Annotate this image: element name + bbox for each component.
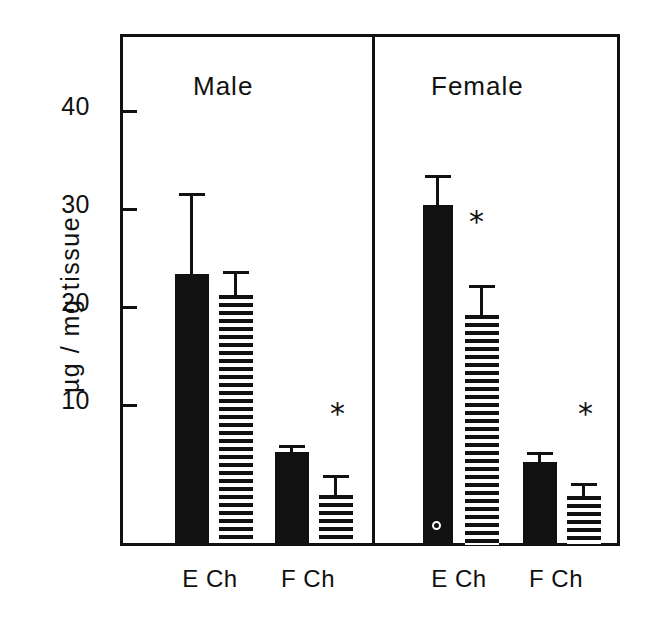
errorbar-cap-male-ech-solid	[179, 193, 205, 196]
errorbar-cap-female-ech-solid	[425, 175, 451, 178]
errorbar-stem-female-ech-solid	[436, 175, 439, 206]
panel-title-female: Female	[431, 71, 524, 102]
bar-female-ech-striped	[465, 315, 499, 545]
errorbar-cap-male-fch-striped	[323, 475, 349, 478]
errorbar-cap-female-ech-striped	[469, 285, 495, 288]
y-tick-label-10: 10	[28, 386, 90, 415]
bar-male-fch-solid	[275, 452, 309, 545]
bar-female-ech-solid	[423, 205, 453, 545]
bar-female-fch-striped	[567, 496, 601, 545]
bar-male-ech-solid	[175, 274, 209, 545]
errorbar-cap-male-fch-solid	[279, 445, 305, 448]
y-tick-label-30: 30	[28, 190, 90, 219]
significance-star-male-fch: *	[330, 399, 345, 429]
x-tick-label-female-ech: E Ch	[428, 565, 490, 593]
figure-bar-chart: µg / mg tissue 40 30 20 10 Male *	[0, 0, 655, 625]
plot-area: Male * Female *	[120, 34, 620, 546]
bar-male-fch-striped	[319, 495, 353, 545]
significance-star-female-fch: *	[578, 399, 593, 429]
y-axis-tick-30	[123, 208, 137, 211]
panel-divider	[372, 37, 375, 543]
errorbar-cap-female-fch-striped	[571, 483, 597, 486]
print-artifact-speck	[432, 521, 441, 530]
y-axis-tick-10	[123, 404, 137, 407]
x-tick-label-female-fch: F Ch	[526, 565, 586, 593]
errorbar-stem-female-ech-striped	[480, 285, 483, 316]
errorbar-cap-female-fch-solid	[527, 452, 553, 455]
errorbar-stem-male-fch-striped	[334, 475, 337, 496]
x-tick-label-male-fch: F Ch	[278, 565, 338, 593]
errorbar-stem-male-ech-solid	[190, 193, 193, 275]
y-axis-tick-40	[123, 110, 137, 113]
y-axis-tick-20	[123, 306, 137, 309]
significance-star-female-ech: *	[469, 207, 484, 237]
y-tick-label-20: 20	[28, 288, 90, 317]
x-tick-label-male-ech: E Ch	[180, 565, 240, 593]
errorbar-stem-male-ech-striped	[234, 271, 237, 296]
panel-title-male: Male	[193, 71, 253, 102]
errorbar-cap-male-ech-striped	[223, 271, 249, 274]
bar-male-ech-striped	[219, 295, 253, 545]
bar-female-fch-solid	[523, 462, 557, 545]
y-tick-label-40: 40	[28, 92, 90, 121]
